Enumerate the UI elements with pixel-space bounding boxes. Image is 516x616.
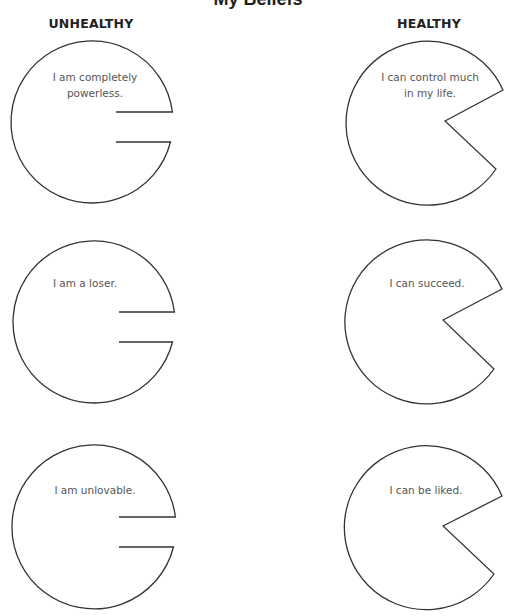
- healthy-belief-text: I can succeed.: [352, 275, 502, 291]
- notched-circle-shape: [11, 41, 172, 203]
- pacman-wedge-shape: [345, 240, 502, 404]
- healthy-belief-text: I can control much in my life.: [355, 69, 505, 101]
- unhealthy-belief-text: I am unlovable.: [20, 482, 170, 498]
- notched-circle-shape: [12, 445, 175, 609]
- unhealthy-belief-text: I am a loser.: [10, 275, 160, 291]
- healthy-belief-text: I can be liked.: [351, 482, 501, 498]
- notched-circle-shape: [13, 241, 174, 403]
- pacman-wedge-shape: [346, 41, 503, 205]
- unhealthy-belief-text: I am completely powerless.: [20, 69, 170, 101]
- pacman-wedge-shape: [344, 446, 502, 610]
